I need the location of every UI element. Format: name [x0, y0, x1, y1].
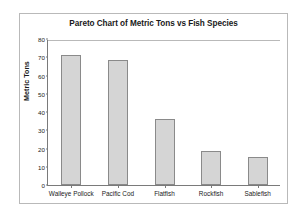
y-tick-label: 0: [42, 182, 45, 189]
y-tick-mark: [46, 39, 49, 40]
y-tick-label: 30: [38, 127, 45, 134]
y-tick-label: 60: [38, 72, 45, 79]
bar: [248, 157, 268, 185]
x-tick-label: Sablefish: [245, 190, 271, 197]
y-tick-mark: [46, 148, 49, 149]
y-tick-mark: [46, 112, 49, 113]
x-tick-mark: [165, 185, 166, 188]
y-tick-label: 40: [38, 109, 45, 116]
x-tick-label: Walleye Pollock: [49, 190, 94, 197]
plot-area: 01020304050607080 Walleye PollockPacific…: [47, 40, 280, 186]
y-axis-title: Metric Tons: [22, 41, 31, 101]
x-tick-mark: [258, 185, 259, 188]
x-tick-mark: [211, 185, 212, 188]
y-tick-label: 20: [38, 145, 45, 152]
y-tick-label: 80: [38, 36, 45, 43]
y-tick-label: 10: [38, 163, 45, 170]
x-tick-label: Pacific Cod: [102, 190, 134, 197]
bar: [201, 151, 221, 185]
bar: [108, 60, 128, 185]
chart-title: Pareto Chart of Metric Tons vs Fish Spec…: [24, 19, 283, 28]
y-tick-mark: [46, 130, 49, 131]
x-tick-label: Flatfish: [154, 190, 175, 197]
y-tick-mark: [46, 93, 49, 94]
y-tick-mark: [46, 75, 49, 76]
bar: [155, 119, 175, 185]
bar: [61, 55, 81, 185]
y-tick-mark: [46, 185, 49, 186]
x-tick-mark: [71, 185, 72, 188]
y-tick-label: 50: [38, 90, 45, 97]
x-tick-label: Rockfish: [199, 190, 224, 197]
x-tick-mark: [118, 185, 119, 188]
chart-figure: Pareto Chart of Metric Tons vs Fish Spec…: [0, 0, 306, 214]
y-tick-mark: [46, 166, 49, 167]
y-tick-label: 70: [38, 54, 45, 61]
y-tick-mark: [46, 57, 49, 58]
